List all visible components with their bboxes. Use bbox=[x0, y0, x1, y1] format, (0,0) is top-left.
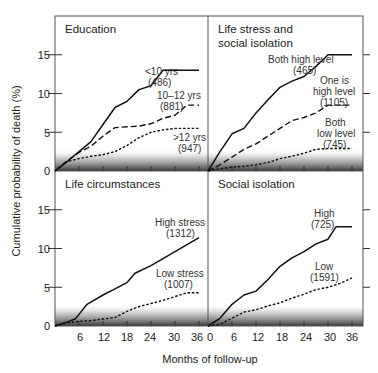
series-label: low level bbox=[317, 128, 355, 139]
shade-band-bottom-right bbox=[208, 304, 363, 326]
svg-text:24: 24 bbox=[300, 331, 312, 343]
svg-text:0: 0 bbox=[207, 331, 213, 343]
series-label: (947) bbox=[178, 143, 201, 154]
svg-text:5: 5 bbox=[44, 127, 50, 139]
series-label: Low bbox=[315, 261, 334, 272]
series-labels: <10 yrs(486)10–12 yrs(881)>12 yrs(947)Bo… bbox=[145, 54, 355, 290]
series-label: (725) bbox=[311, 219, 334, 230]
series-label: 10–12 yrs bbox=[157, 90, 201, 101]
series-label: high level bbox=[313, 86, 355, 97]
svg-text:18: 18 bbox=[121, 331, 133, 343]
series-label: Both high level bbox=[268, 54, 334, 65]
svg-text:15: 15 bbox=[38, 204, 50, 216]
y-axis-title: Cumulative probability of death (%) bbox=[10, 85, 22, 256]
figure: Education Life stress and social isolati… bbox=[0, 0, 378, 373]
svg-text:30: 30 bbox=[168, 331, 180, 343]
series-lines bbox=[55, 55, 352, 326]
y-tick-labels-top: 0 5 10 15 bbox=[38, 49, 50, 177]
y-tick-labels-bottom: 0 5 10 15 bbox=[38, 204, 50, 332]
panel-title-life-stress-line2: social isolation bbox=[218, 37, 293, 49]
svg-text:12: 12 bbox=[98, 331, 110, 343]
svg-text:18: 18 bbox=[276, 331, 288, 343]
series-label: (745) bbox=[323, 139, 346, 150]
svg-text:0: 0 bbox=[44, 165, 50, 177]
series-label: (881) bbox=[160, 101, 183, 112]
chart-svg: Education Life stress and social isolati… bbox=[0, 0, 378, 373]
svg-text:24: 24 bbox=[144, 331, 156, 343]
series-label: Low stress bbox=[156, 268, 204, 279]
svg-text:10: 10 bbox=[38, 243, 50, 255]
series-label: One is bbox=[320, 75, 349, 86]
series-label: <10 yrs bbox=[145, 66, 178, 77]
series-label: (1312) bbox=[166, 228, 195, 239]
svg-text:36: 36 bbox=[346, 331, 358, 343]
x-tick-labels-left: 6 12 18 24 30 36 bbox=[77, 331, 203, 343]
panel-title-education: Education bbox=[65, 23, 116, 35]
series-label: High bbox=[314, 208, 335, 219]
series-label: >12 yrs bbox=[173, 132, 206, 143]
x-axis-title: Months of follow-up bbox=[162, 353, 257, 365]
series-label: (465) bbox=[293, 65, 316, 76]
series-label: Both bbox=[325, 117, 346, 128]
panel-title-life-stress-line1: Life stress and bbox=[218, 23, 293, 35]
svg-text:36: 36 bbox=[191, 331, 203, 343]
svg-text:30: 30 bbox=[324, 331, 336, 343]
svg-text:6: 6 bbox=[77, 331, 83, 343]
series-label: (486) bbox=[148, 77, 171, 88]
svg-text:0: 0 bbox=[44, 320, 50, 332]
svg-text:10: 10 bbox=[38, 88, 50, 100]
series-label: (1591) bbox=[310, 272, 339, 283]
series-label: (1007) bbox=[164, 279, 193, 290]
panel-title-life-circumstances: Life circumstances bbox=[65, 178, 160, 190]
svg-text:15: 15 bbox=[38, 49, 50, 61]
x-tick-labels-right: 0 6 12 18 24 30 36 bbox=[207, 331, 358, 343]
series-label: High stress bbox=[155, 217, 205, 228]
svg-text:12: 12 bbox=[252, 331, 264, 343]
panel-title-social-isolation: Social isolation bbox=[218, 178, 295, 190]
series-label: (1105) bbox=[320, 97, 348, 108]
svg-text:5: 5 bbox=[44, 282, 50, 294]
svg-text:6: 6 bbox=[231, 331, 237, 343]
